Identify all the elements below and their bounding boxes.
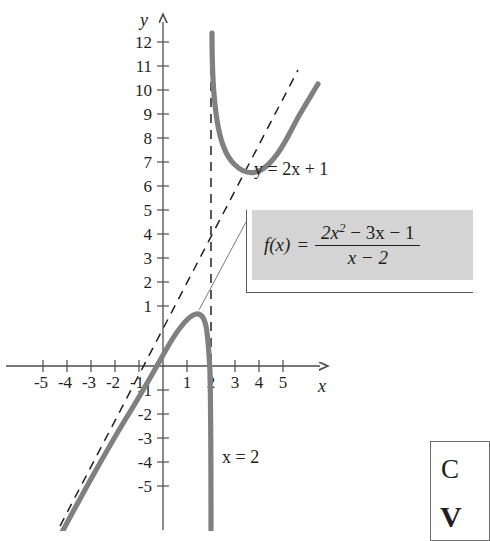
y-tick-label: 9 (144, 105, 153, 124)
x-tick-label: 3 (231, 373, 240, 392)
x-tick-label: -4 (58, 373, 73, 392)
function-curve-right-branch (212, 33, 318, 173)
formula-callout: f(x) = 2x2 − 3x − 1 x − 2 (252, 210, 473, 280)
numerator-term-2: − 3x − 1 (350, 222, 414, 243)
y-tick-label: 8 (144, 129, 153, 148)
y-tick-label: 5 (144, 201, 153, 220)
x-tick-label: 4 (255, 373, 264, 392)
formula-fraction: 2x2 − 3x − 1 x − 2 (315, 221, 420, 270)
function-curve-left-branch (29, 314, 211, 531)
y-tick-label: -2 (138, 405, 152, 424)
y-tick-label: 10 (135, 81, 152, 100)
x-tick-labels: -5 -4 -3 -2 -1 1 2 3 4 5 (34, 373, 287, 392)
formula-numerator: 2x2 − 3x − 1 (315, 221, 420, 245)
formula-equals: = (297, 234, 308, 256)
y-axis-label: y (138, 10, 148, 30)
formula-denominator: x − 2 (342, 246, 394, 269)
y-tick-label: 6 (144, 177, 153, 196)
y-tick-label: 3 (144, 249, 153, 268)
corner-box-line-2: V (440, 500, 462, 534)
vertical-asymptote-label: x = 2 (222, 447, 259, 467)
y-tick-label: -3 (138, 429, 152, 448)
numerator-term-1: 2x (321, 222, 339, 243)
x-tick-label: -2 (106, 373, 120, 392)
x-tick-label: -5 (34, 373, 48, 392)
corner-box-line-1: C (441, 454, 459, 485)
x-tick-label: 5 (279, 373, 288, 392)
y-tick-label: 4 (144, 225, 153, 244)
corner-partial-box: C V (430, 441, 490, 541)
slant-asymptote-label: y = 2x + 1 (254, 159, 328, 179)
y-tick-label: -4 (138, 453, 153, 472)
y-tick-label: 2 (144, 273, 153, 292)
y-axis (157, 22, 169, 530)
callout-leader-line (199, 222, 246, 310)
y-tick-label: 1 (144, 297, 153, 316)
numerator-exponent: 2 (339, 220, 345, 235)
x-axis-label: x (317, 376, 326, 396)
y-tick-label: 7 (144, 153, 153, 172)
y-tick-labels: 12 11 10 9 8 7 6 5 4 3 2 1 -1 -2 -3 -4 -… (135, 33, 153, 496)
x-tick-label: -3 (82, 373, 96, 392)
x-tick-label: 1 (183, 373, 192, 392)
y-tick-label: 12 (135, 33, 152, 52)
y-tick-label: -5 (138, 477, 152, 496)
formula-lhs: f(x) (264, 234, 290, 256)
y-tick-label: 11 (136, 57, 152, 76)
